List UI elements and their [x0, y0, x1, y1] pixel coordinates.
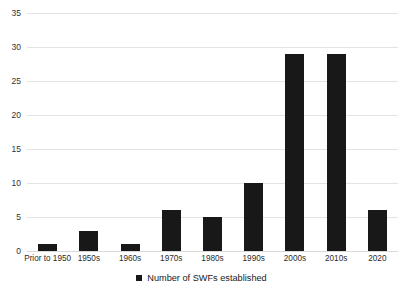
y-axis: 05101520253035: [0, 13, 24, 251]
bar: [285, 54, 304, 251]
x-axis-tick-label: Prior to 1950: [24, 253, 71, 264]
x-axis-tick-label: 1950s: [78, 253, 100, 264]
y-axis-tick-label: 35: [12, 9, 21, 18]
x-axis: Prior to 19501950s1960s1970s1980s1990s20…: [27, 253, 398, 269]
legend-square-marker-icon: [136, 275, 142, 281]
y-axis-tick-label: 15: [12, 145, 21, 154]
x-axis-tick-label: 1960s: [119, 253, 141, 264]
bar: [121, 244, 140, 251]
x-axis-tick-label: 2000s: [284, 253, 306, 264]
bars-layer: [27, 13, 398, 251]
y-axis-tick-label: 5: [16, 213, 21, 222]
bar: [79, 231, 98, 251]
y-axis-tick-label: 0: [16, 247, 21, 256]
bar-chart: 05101520253035 Prior to 19501950s1960s19…: [0, 0, 403, 289]
x-axis-tick-label: 1990s: [243, 253, 265, 264]
x-axis-tick-label: 1980s: [201, 253, 223, 264]
bar: [368, 210, 387, 251]
bar: [162, 210, 181, 251]
chart-legend: Number of SWFs established: [0, 271, 403, 285]
bar: [38, 244, 57, 251]
y-axis-tick-label: 30: [12, 43, 21, 52]
x-axis-tick-label: 1970s: [160, 253, 182, 264]
bar: [327, 54, 346, 251]
gridline: [27, 251, 398, 252]
legend-label: Number of SWFs established: [147, 273, 266, 284]
bar: [244, 183, 263, 251]
y-axis-tick-label: 20: [12, 111, 21, 120]
x-axis-tick-label: 2010s: [325, 253, 347, 264]
y-axis-tick-label: 25: [12, 77, 21, 86]
x-axis-tick-label: 2020: [368, 253, 386, 264]
y-axis-tick-label: 10: [12, 179, 21, 188]
bar: [203, 217, 222, 251]
